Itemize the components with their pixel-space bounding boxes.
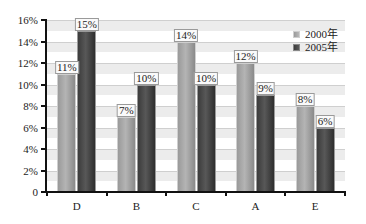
- y-tick-label: 6%: [4, 122, 38, 134]
- legend: 2000年 2005年: [293, 28, 338, 54]
- y-tick-label: 4%: [4, 143, 38, 155]
- data-label-A-0: 12%: [234, 50, 258, 63]
- legend-label-2000: 2000年: [305, 28, 338, 41]
- x-tick-mark: [284, 191, 286, 196]
- y-tick-label: 2%: [4, 165, 38, 177]
- data-label-C-1: 10%: [194, 72, 218, 85]
- y-tick-label: 14%: [4, 36, 38, 48]
- legend-swatch-2000: [293, 31, 300, 38]
- legend-item-2005: 2005年: [293, 41, 338, 54]
- y-tick-mark: [41, 148, 46, 150]
- y-tick-mark: [41, 84, 46, 86]
- bar-E-2000年: [296, 106, 315, 192]
- bar-D-2005年: [77, 31, 96, 192]
- y-tick-mark: [41, 41, 46, 43]
- x-tick-mark: [165, 191, 167, 196]
- y-tick-mark: [41, 105, 46, 107]
- y-tick-label: 0: [4, 186, 38, 198]
- legend-item-2000: 2000年: [293, 28, 338, 41]
- bar-E-2005年: [316, 128, 335, 193]
- y-tick-label: 12%: [4, 57, 38, 69]
- bar-D-2000年: [57, 74, 76, 192]
- data-label-B-0: 7%: [117, 104, 136, 117]
- data-label-E-1: 6%: [316, 115, 335, 128]
- bar-C-2000年: [177, 42, 196, 193]
- data-label-D-0: 11%: [55, 61, 79, 74]
- y-tick-label: 10%: [4, 79, 38, 91]
- bar-A-2000年: [236, 63, 255, 192]
- legend-swatch-2005: [293, 44, 300, 51]
- x-axis-line: [45, 191, 346, 193]
- y-tick-mark: [41, 170, 46, 172]
- data-label-E-0: 8%: [296, 93, 315, 106]
- y-tick-mark: [41, 62, 46, 64]
- y-tick-label: 16%: [4, 14, 38, 26]
- x-tick-mark: [106, 191, 108, 196]
- y-tick-mark: [41, 127, 46, 129]
- bar-chart: 11%15%7%10%14%10%12%9%8%6% 02%4%6%8%10%1…: [0, 0, 366, 224]
- x-tick-label: D: [57, 200, 97, 212]
- x-tick-label: B: [116, 200, 156, 212]
- bar-B-2005年: [137, 85, 156, 193]
- x-tick-mark: [46, 191, 48, 196]
- bar-A-2005年: [256, 95, 275, 192]
- x-tick-mark: [225, 191, 227, 196]
- data-label-A-1: 9%: [256, 82, 275, 95]
- x-tick-label: E: [295, 200, 335, 212]
- x-tick-mark: [344, 191, 346, 196]
- bar-C-2005年: [197, 85, 216, 193]
- x-tick-label: C: [176, 200, 216, 212]
- legend-label-2005: 2005年: [305, 41, 338, 54]
- y-tick-label: 8%: [4, 100, 38, 112]
- bar-B-2000年: [117, 117, 136, 192]
- data-label-D-1: 15%: [75, 18, 99, 31]
- data-label-C-0: 14%: [174, 29, 198, 42]
- x-tick-label: A: [236, 200, 276, 212]
- data-label-B-1: 10%: [134, 72, 158, 85]
- y-tick-mark: [41, 19, 46, 21]
